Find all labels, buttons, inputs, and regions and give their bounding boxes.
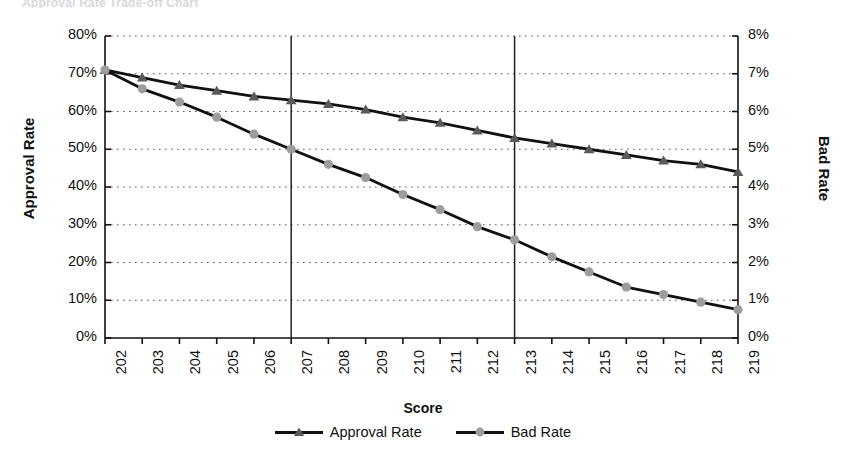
data-point-circle bbox=[584, 267, 593, 276]
x-axis-tick-label: 210 bbox=[411, 350, 427, 390]
data-point-circle bbox=[249, 130, 258, 139]
data-point-circle bbox=[436, 205, 445, 214]
x-axis-tick-label: 213 bbox=[523, 350, 539, 390]
y-axis-right-tick-label: 6% bbox=[748, 102, 804, 118]
y-axis-right-title: Bad Rate bbox=[816, 89, 833, 249]
x-axis-tick-label: 205 bbox=[225, 350, 241, 390]
x-axis-tick-label: 216 bbox=[634, 350, 650, 390]
series-line-approval-rate bbox=[105, 70, 738, 172]
y-axis-right-tick-label: 8% bbox=[748, 26, 804, 42]
data-point-circle bbox=[398, 190, 407, 199]
triangle-marker bbox=[275, 425, 323, 439]
legend-item-bad-rate[interactable]: Bad Rate bbox=[456, 424, 571, 440]
y-axis-right-tick-label: 3% bbox=[748, 215, 804, 231]
data-point-circle bbox=[696, 298, 705, 307]
y-axis-right-tick-label: 4% bbox=[748, 177, 804, 193]
y-axis-right-tick-label: 0% bbox=[748, 328, 804, 344]
y-axis-left-tick-label: 70% bbox=[41, 64, 97, 80]
data-point-circle bbox=[510, 235, 519, 244]
data-point-circle bbox=[324, 160, 333, 169]
x-axis-tick-label: 204 bbox=[187, 350, 203, 390]
y-axis-left-tick-label: 50% bbox=[41, 139, 97, 155]
y-axis-left-tick-label: 20% bbox=[41, 253, 97, 269]
chart-container: Approval Rate Trade-off Chart Approval R… bbox=[0, 0, 846, 467]
data-point-circle bbox=[547, 252, 556, 261]
data-point-circle bbox=[473, 222, 482, 231]
series-line-bad-rate bbox=[105, 70, 738, 310]
data-point-circle bbox=[733, 305, 742, 314]
data-point-circle bbox=[100, 65, 109, 74]
legend-label: Approval Rate bbox=[330, 424, 422, 440]
x-axis-tick-label: 203 bbox=[150, 350, 166, 390]
data-point-circle bbox=[361, 173, 370, 182]
data-point-circle bbox=[622, 282, 631, 291]
x-axis-title: Score bbox=[0, 400, 846, 416]
chart-title: Approval Rate Trade-off Chart bbox=[22, 0, 422, 8]
x-axis-tick-label: 215 bbox=[597, 350, 613, 390]
x-axis-tick-label: 219 bbox=[746, 350, 762, 390]
chart-legend: Approval RateBad Rate bbox=[0, 424, 846, 440]
legend-marker bbox=[474, 426, 486, 438]
x-axis-tick-label: 218 bbox=[709, 350, 725, 390]
x-axis-tick-label: 212 bbox=[485, 350, 501, 390]
data-point-circle bbox=[138, 84, 147, 93]
x-axis-tick-label: 208 bbox=[336, 350, 352, 390]
plot-area bbox=[0, 0, 846, 467]
x-axis-tick-label: 211 bbox=[448, 350, 464, 390]
legend-marker bbox=[293, 426, 305, 438]
y-axis-right-tick-label: 5% bbox=[748, 139, 804, 155]
y-axis-right-tick-label: 7% bbox=[748, 64, 804, 80]
x-axis-tick-label: 214 bbox=[560, 350, 576, 390]
y-axis-left-tick-label: 80% bbox=[41, 26, 97, 42]
y-axis-left-tick-label: 60% bbox=[41, 102, 97, 118]
y-axis-left-tick-label: 40% bbox=[41, 177, 97, 193]
x-axis-tick-label: 209 bbox=[374, 350, 390, 390]
data-point-circle bbox=[659, 290, 668, 299]
y-axis-right-tick-label: 2% bbox=[748, 253, 804, 269]
legend-item-approval-rate[interactable]: Approval Rate bbox=[275, 424, 422, 440]
y-axis-left-title: Approval Rate bbox=[20, 89, 37, 249]
y-axis-left-tick-label: 30% bbox=[41, 215, 97, 231]
legend-label: Bad Rate bbox=[511, 424, 571, 440]
x-axis-tick-label: 217 bbox=[672, 350, 688, 390]
x-axis-tick-label: 206 bbox=[262, 350, 278, 390]
y-axis-right-tick-label: 1% bbox=[748, 290, 804, 306]
x-axis-tick-label: 207 bbox=[299, 350, 315, 390]
data-point-circle bbox=[175, 97, 184, 106]
x-axis-tick-label: 202 bbox=[113, 350, 129, 390]
y-axis-left-tick-label: 10% bbox=[41, 290, 97, 306]
y-axis-left-tick-label: 0% bbox=[41, 328, 97, 344]
data-point-circle bbox=[212, 113, 221, 122]
circle-marker bbox=[456, 425, 504, 439]
data-point-circle bbox=[287, 145, 296, 154]
